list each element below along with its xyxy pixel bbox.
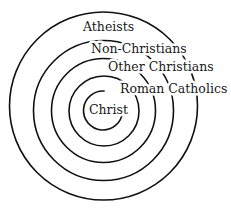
concentric-circles-diagram: Atheists Non-Christians Other Christians… <box>0 0 231 215</box>
label-christ: Christ <box>89 102 128 117</box>
label-roman-catholics: Roman Catholics <box>120 81 227 96</box>
label-atheists: Atheists <box>82 19 134 34</box>
label-other-christians: Other Christians <box>108 59 214 74</box>
label-non-christians: Non-Christians <box>91 41 187 56</box>
